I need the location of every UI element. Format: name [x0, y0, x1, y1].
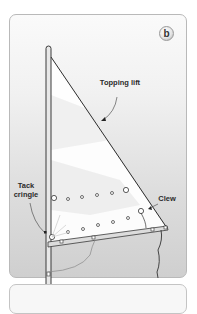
mast [46, 46, 51, 293]
clew-label: Clew [154, 194, 180, 203]
diagram-panel-next [9, 284, 187, 314]
clew-cringle [138, 208, 143, 213]
topping-lift-label: Topping lift [92, 78, 148, 87]
tack-arrow [30, 203, 45, 233]
panel-badge: b [159, 26, 174, 41]
topping-lift-arrow [103, 97, 117, 120]
tack-cringle-label-line1: Tack [8, 181, 44, 190]
tack-cringle-label: Tack cringle [8, 181, 44, 199]
tack-cringle-label-line2: cringle [8, 190, 44, 199]
